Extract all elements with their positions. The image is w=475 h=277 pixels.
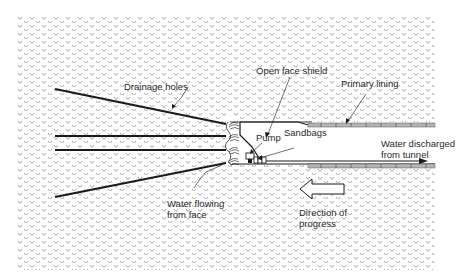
label-open-face-shield: Open face shield bbox=[256, 65, 327, 76]
label-water-flowing-1: Water flowing bbox=[167, 198, 224, 209]
label-pump: Pump bbox=[256, 132, 281, 143]
label-sandbags: Sandbags bbox=[284, 127, 327, 138]
label-direction-1: Direction of bbox=[299, 207, 347, 218]
label-primary-lining: Primary lining bbox=[341, 78, 399, 89]
label-water-discharged-1: Water discharged bbox=[381, 138, 455, 149]
tunnel-drainage-diagram: Drainage holes Open face shield Primary … bbox=[0, 0, 475, 277]
label-direction-2: progress bbox=[299, 218, 336, 229]
primary-lining-upper bbox=[308, 123, 435, 127]
label-water-flowing-2: from face bbox=[167, 209, 207, 220]
primary-lining-lower bbox=[308, 164, 435, 168]
label-water-discharged-2: from tunnel bbox=[381, 149, 429, 160]
label-drainage-holes: Drainage holes bbox=[124, 81, 188, 92]
